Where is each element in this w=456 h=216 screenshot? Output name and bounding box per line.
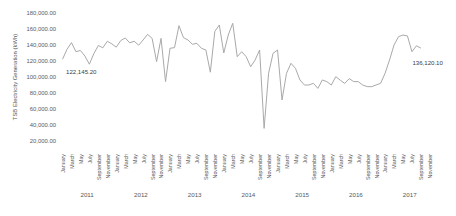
y-axis-tick-label: 100,000.00: [27, 74, 57, 80]
x-axis-month-label: January: [114, 154, 120, 173]
x-axis-month-label: July: [409, 154, 415, 164]
data-point-annotation: 136,120.10: [412, 59, 443, 66]
x-axis-month-label: March: [391, 154, 397, 169]
x-axis-month-label: November: [158, 154, 164, 179]
x-axis-month-label: January: [329, 154, 335, 173]
x-axis-month-label: November: [266, 154, 272, 179]
x-axis-year-label: 2014: [242, 191, 256, 198]
y-axis-tick-label: 80,000.00: [30, 90, 57, 96]
x-axis-year-label: 2016: [349, 191, 363, 198]
y-axis-tick-label: 40,000.00: [30, 122, 57, 128]
y-axis-tick-label: 160,000.00: [27, 26, 57, 32]
x-axis-month-label: May: [78, 154, 84, 164]
x-axis-month-label: November: [427, 154, 433, 179]
x-axis-month-label: March: [69, 154, 75, 169]
x-axis-month-label: September: [150, 154, 156, 180]
x-axis-month-label: July: [356, 154, 362, 164]
x-axis-month-label: March: [338, 154, 344, 169]
x-axis-month-label: November: [105, 154, 111, 179]
x-axis-month-label: May: [185, 154, 191, 164]
x-axis-month-label: May: [347, 154, 353, 164]
electricity-generation-chart: 180,000.00160,000.00140,000.00120,000.00…: [0, 0, 456, 216]
x-axis-month-label: July: [87, 154, 93, 164]
x-axis-month-label: November: [212, 154, 218, 179]
x-axis-month-label: July: [248, 154, 254, 164]
x-axis-month-label: January: [221, 154, 227, 173]
x-axis-year-label: 2017: [403, 191, 417, 198]
x-axis-year-label: 2012: [134, 191, 148, 198]
x-axis-month-label: September: [365, 154, 371, 180]
x-axis-month-label: January: [275, 154, 281, 173]
x-axis-month-label: March: [176, 154, 182, 169]
x-axis-month-label: July: [141, 154, 147, 164]
x-axis-month-label: November: [374, 154, 380, 179]
x-axis-month-label: January: [382, 154, 388, 173]
x-axis-year-label: 2015: [295, 191, 309, 198]
x-axis-month-label: January: [167, 154, 173, 173]
y-axis-tick-label: 20,000.00: [30, 138, 57, 144]
x-axis-month-label: May: [293, 154, 299, 164]
x-axis-month-label: January: [60, 154, 66, 173]
chart-canvas: 180,000.00160,000.00140,000.00120,000.00…: [0, 0, 456, 216]
x-axis-year-label: 2013: [188, 191, 202, 198]
x-axis-month-label: May: [400, 154, 406, 164]
x-axis-month-label: September: [96, 154, 102, 180]
x-axis-month-label: September: [203, 154, 209, 180]
x-axis-month-label: November: [320, 154, 326, 179]
x-axis-month-label: March: [230, 154, 236, 169]
x-axis-month-label: March: [123, 154, 129, 169]
y-axis-tick-label: 60,000.00: [30, 106, 57, 112]
x-axis-month-label: September: [257, 154, 263, 180]
data-point-annotation: 122,145.20: [66, 68, 97, 75]
x-axis-month-label: July: [194, 154, 200, 164]
y-axis-tick-label: 120,000.00: [27, 58, 57, 64]
x-axis-month-label: May: [132, 154, 138, 164]
y-axis-tick-label: 180,000.00: [27, 10, 57, 16]
y-axis-title: TSB Electricity Generation (kWh): [12, 34, 18, 120]
generation-series-line: [63, 23, 421, 128]
y-axis-tick-label: 140,000.00: [27, 42, 57, 48]
x-axis-month-label: September: [311, 154, 317, 180]
x-axis-year-label: 2011: [80, 191, 94, 198]
x-axis-month-label: March: [284, 154, 290, 169]
x-axis-month-label: September: [418, 154, 424, 180]
x-axis-month-label: July: [302, 154, 308, 164]
x-axis-month-label: May: [239, 154, 245, 164]
